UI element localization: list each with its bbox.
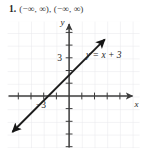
coordinate-graph: x y 3 −3 y = x + 3 (0, 16, 150, 153)
graph-gridlines (8, 22, 140, 149)
worksheet-answer-figure: 1.(−∞, ∞), (−∞, ∞) (0, 0, 150, 153)
equation-label: y = x + 3 (85, 50, 122, 60)
y-intercept-label: 3 (57, 53, 62, 63)
x-axis-label: x (134, 99, 139, 109)
answer-intervals: (−∞, ∞), (−∞, ∞) (19, 4, 83, 14)
x-intercept-label: −3 (36, 100, 46, 110)
answer-line: 1.(−∞, ∞), (−∞, ∞) (0, 2, 150, 16)
graph-svg: x y 3 −3 y = x + 3 (0, 16, 150, 153)
answer-number: 1. (0, 4, 19, 14)
y-axis-label: y (60, 17, 65, 27)
